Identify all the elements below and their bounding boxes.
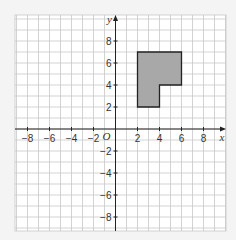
y-axis-label: y xyxy=(106,13,112,25)
x-tick-label: 2 xyxy=(135,133,141,144)
y-tick-label: 4 xyxy=(106,80,112,91)
y-tick-label: 8 xyxy=(106,36,112,47)
x-tick-label: −8 xyxy=(22,133,34,144)
grid-background xyxy=(15,15,226,231)
x-tick-label: 6 xyxy=(179,133,185,144)
y-tick-label: 2 xyxy=(106,102,112,113)
x-tick-label: −6 xyxy=(44,133,56,144)
y-tick-label: 6 xyxy=(106,58,112,69)
origin-label: O xyxy=(103,130,111,142)
x-tick-label: −4 xyxy=(66,133,78,144)
coordinate-grid: −8−6−4−224688642−2−4−6−8Oxy xyxy=(0,0,236,240)
x-tick-label: 8 xyxy=(201,133,207,144)
y-tick-label: −8 xyxy=(100,212,112,223)
x-tick-label: −2 xyxy=(88,133,100,144)
x-tick-label: 4 xyxy=(157,133,163,144)
y-tick-label: −6 xyxy=(100,190,112,201)
x-axis-label: x xyxy=(219,131,225,143)
y-tick-label: −2 xyxy=(100,146,112,157)
y-tick-label: −4 xyxy=(100,168,112,179)
